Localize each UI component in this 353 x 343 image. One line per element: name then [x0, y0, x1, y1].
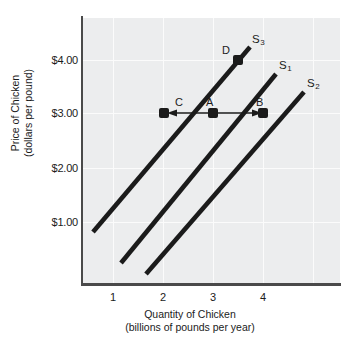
curve-label-s1: S1: [279, 59, 291, 71]
point-label-b: B: [256, 96, 263, 108]
x-axis-title-line1: Quantity of Chicken: [60, 308, 320, 321]
gridline-vertical: [213, 18, 214, 284]
gridline-horizontal: [83, 113, 340, 114]
gridline-vertical: [163, 18, 164, 284]
gridline-horizontal: [83, 222, 340, 223]
plot-area: [83, 18, 340, 284]
curve-label-s3: S3: [252, 33, 264, 45]
curve-label-s2-sub: 2: [315, 82, 319, 91]
point-label-c: C: [175, 96, 183, 108]
point-label-d: D: [222, 44, 230, 56]
y-axis-title-line1: Price of Chicken: [9, 28, 22, 198]
x-tick-label-1: 1: [101, 291, 125, 303]
gridline-vertical: [313, 18, 314, 284]
supply-curve-chart: $4.00 $3.00 $2.00 $1.00 1 2 3 4 Price of…: [0, 0, 353, 343]
curve-label-s1-text: S: [279, 59, 287, 71]
curve-label-s2-text: S: [307, 77, 315, 89]
curve-label-s3-text: S: [252, 33, 260, 45]
x-axis-line: [81, 283, 341, 286]
gridline-horizontal: [83, 60, 340, 61]
gridline-vertical: [263, 18, 264, 284]
curve-label-s2: S2: [307, 77, 319, 89]
y-tick-label-3: $3.00: [32, 107, 78, 119]
y-tick-label-4: $4.00: [32, 54, 78, 66]
curve-label-s3-sub: 3: [260, 38, 264, 47]
gridline-vertical: [113, 18, 114, 284]
x-tick-label-3: 3: [201, 291, 225, 303]
y-axis-title-line2: (dollars per pound): [22, 28, 35, 198]
x-axis-title: Quantity of Chicken (billions of pounds …: [60, 308, 320, 334]
y-axis-title: Price of Chicken (dollars per pound): [9, 28, 35, 198]
gridline-horizontal: [83, 168, 340, 169]
x-tick-label-2: 2: [151, 291, 175, 303]
x-tick-label-4: 4: [251, 291, 275, 303]
y-tick-label-2: $2.00: [32, 162, 78, 174]
curve-label-s1-sub: 1: [287, 64, 291, 73]
y-axis-line: [81, 16, 83, 286]
point-label-a: A: [206, 96, 213, 108]
y-tick-label-1: $1.00: [32, 216, 78, 228]
x-axis-title-line2: (billions of pounds per year): [60, 321, 320, 334]
